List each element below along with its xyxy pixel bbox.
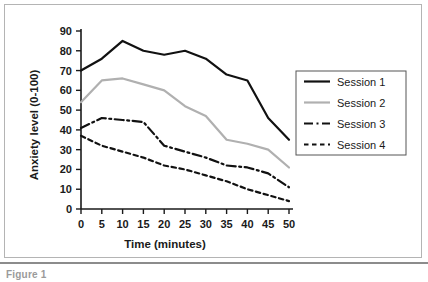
legend-label-3: Session 3 (337, 118, 385, 130)
legend-label-2: Session 2 (337, 97, 385, 109)
y-tick-label: 60 (60, 84, 72, 96)
y-tick-label: 10 (60, 183, 72, 195)
x-axis-title: Time (minutes) (124, 238, 206, 250)
y-axis-ticks: 0102030405060708090 (60, 25, 81, 215)
series-group (81, 41, 289, 201)
y-tick-label: 30 (60, 144, 72, 156)
series-line-3 (81, 118, 289, 187)
x-tick-label: 40 (241, 218, 253, 230)
x-tick-label: 0 (78, 218, 84, 230)
x-tick-label: 5 (99, 218, 105, 230)
x-tick-label: 25 (179, 218, 191, 230)
legend-label-1: Session 1 (337, 76, 385, 88)
y-tick-label: 70 (60, 65, 72, 77)
y-tick-label: 0 (66, 203, 72, 215)
x-tick-label: 35 (220, 218, 232, 230)
y-tick-label: 20 (60, 163, 72, 175)
caption-strip: Figure 1 (0, 262, 428, 282)
chart-legend: Session 1Session 2Session 3Session 4 (296, 71, 406, 155)
x-tick-label: 50 (283, 218, 295, 230)
y-tick-label: 40 (60, 124, 72, 136)
y-axis-title-group: Anxiety level (0-100) (28, 70, 40, 181)
figure-root: Anxiety level (0-100) 010203040506070809… (0, 0, 428, 282)
legend-label-4: Session 4 (337, 139, 385, 151)
chart-svg: Anxiety level (0-100) 010203040506070809… (5, 5, 423, 257)
x-axis-ticks: 05101520253035404550 (78, 209, 295, 230)
x-tick-label: 30 (200, 218, 212, 230)
x-tick-label: 45 (262, 218, 274, 230)
y-tick-label: 90 (60, 25, 72, 37)
series-line-1 (81, 41, 289, 140)
x-tick-label: 10 (116, 218, 128, 230)
y-tick-label: 50 (60, 104, 72, 116)
series-line-2 (81, 78, 289, 167)
y-tick-label: 80 (60, 45, 72, 57)
x-tick-label: 15 (137, 218, 149, 230)
figure-panel: Anxiety level (0-100) 010203040506070809… (4, 4, 422, 258)
line-chart: Anxiety level (0-100) 010203040506070809… (5, 5, 421, 257)
y-axis-title: Anxiety level (0-100) (28, 70, 40, 181)
caption-divider (0, 262, 428, 264)
x-tick-label: 20 (158, 218, 170, 230)
figure-caption: Figure 1 (6, 269, 47, 280)
